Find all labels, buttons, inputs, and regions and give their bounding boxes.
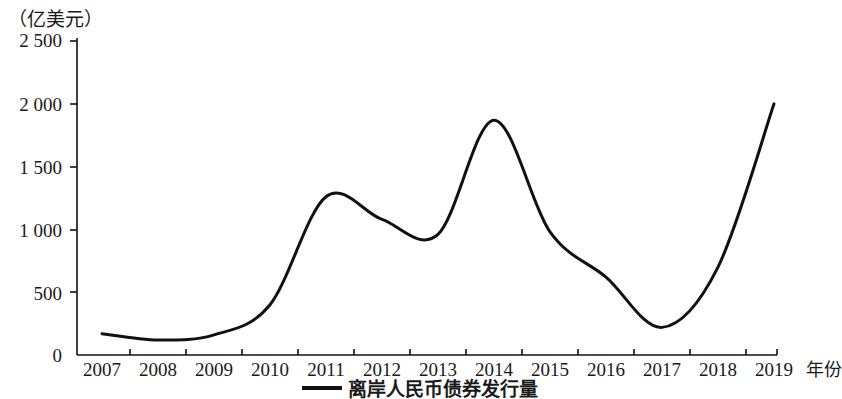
legend-line-swatch (302, 386, 342, 390)
legend-label-offshore-rmb-bond-issuance: 离岸人民币债券发行量 (348, 374, 538, 399)
y-tick-marks (70, 41, 77, 292)
series-line-offshore-rmb-bond-issuance (102, 104, 774, 340)
x-tick-marks (130, 349, 777, 355)
chart-legend: 离岸人民币债券发行量 (0, 374, 840, 399)
